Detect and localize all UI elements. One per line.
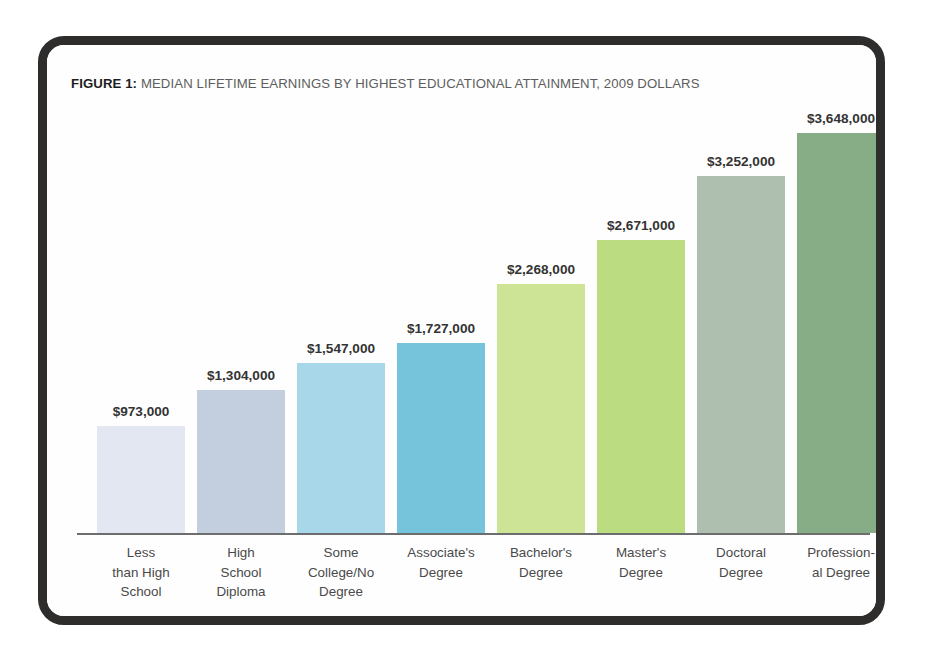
bar-value-label: $1,727,000 [381, 321, 501, 336]
x-axis-category-label: Master'sDegree [583, 543, 699, 582]
category-label-line: School [83, 582, 199, 602]
bar-value-label: $2,268,000 [481, 262, 601, 277]
category-label-line: School [183, 563, 299, 583]
category-label-line: Diploma [183, 582, 299, 602]
bar-value-label: $1,304,000 [181, 368, 301, 383]
category-label-line: Profession- [783, 543, 876, 563]
figure-frame: FIGURE 1: MEDIAN LIFETIME EARNINGS BY HI… [38, 36, 885, 625]
category-label-line: than High [83, 563, 199, 583]
bar [97, 426, 185, 533]
bar [797, 133, 876, 533]
x-axis-category-label: DoctoralDegree [683, 543, 799, 582]
x-axis-category-labels: Lessthan HighSchoolHighSchoolDiplomaSome… [47, 543, 876, 615]
bar-group: $3,648,000 [797, 105, 876, 533]
x-axis-category-label: Profession-al Degree [783, 543, 876, 582]
bar-group: $1,304,000 [197, 105, 285, 533]
bar-series: $973,000$1,304,000$1,547,000$1,727,000$2… [47, 105, 876, 533]
category-label-line: Degree [283, 582, 399, 602]
category-label-line: Degree [483, 563, 599, 583]
x-axis-line [77, 533, 870, 535]
bar [697, 176, 785, 533]
x-axis-category-label: Lessthan HighSchool [83, 543, 199, 602]
category-label-line: Degree [683, 563, 799, 583]
figure-number-label: FIGURE 1: [71, 76, 137, 91]
bar [597, 240, 685, 533]
x-axis-category-label: Bachelor'sDegree [483, 543, 599, 582]
figure-panel: FIGURE 1: MEDIAN LIFETIME EARNINGS BY HI… [47, 45, 876, 616]
x-axis-category-label: HighSchoolDiploma [183, 543, 299, 602]
figure-title-text: MEDIAN LIFETIME EARNINGS BY HIGHEST EDUC… [137, 76, 700, 91]
bar-group: $2,268,000 [497, 105, 585, 533]
category-label-line: Doctoral [683, 543, 799, 563]
bar-group: $1,727,000 [397, 105, 485, 533]
x-axis-category-label: Associate'sDegree [383, 543, 499, 582]
category-label-line: al Degree [783, 563, 876, 583]
figure-title: FIGURE 1: MEDIAN LIFETIME EARNINGS BY HI… [71, 76, 700, 91]
category-label-line: Some [283, 543, 399, 563]
category-label-line: Master's [583, 543, 699, 563]
bar-value-label: $973,000 [81, 404, 201, 419]
bar [397, 343, 485, 533]
bar-group: $2,671,000 [597, 105, 685, 533]
bar-value-label: $3,648,000 [781, 111, 876, 126]
bar [297, 363, 385, 533]
bar-value-label: $1,547,000 [281, 341, 401, 356]
category-label-line: Degree [583, 563, 699, 583]
bar-group: $973,000 [97, 105, 185, 533]
category-label-line: Bachelor's [483, 543, 599, 563]
category-label-line: Degree [383, 563, 499, 583]
category-label-line: College/No [283, 563, 399, 583]
bar-group: $3,252,000 [697, 105, 785, 533]
bar [197, 390, 285, 533]
bar [497, 284, 585, 533]
bar-value-label: $3,252,000 [681, 154, 801, 169]
bar-value-label: $2,671,000 [581, 218, 701, 233]
chart-plot-area: $973,000$1,304,000$1,547,000$1,727,000$2… [47, 105, 876, 616]
category-label-line: Less [83, 543, 199, 563]
category-label-line: Associate's [383, 543, 499, 563]
category-label-line: High [183, 543, 299, 563]
bar-group: $1,547,000 [297, 105, 385, 533]
x-axis-category-label: SomeCollege/NoDegree [283, 543, 399, 602]
